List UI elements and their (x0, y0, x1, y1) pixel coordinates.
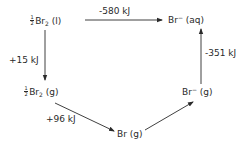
fraction-half: 1 2 (30, 15, 34, 26)
thermochemical-cycle-diagram: 1 2 Br2 (l) -580 kJ Br− (aq) +15 kJ -351… (0, 0, 249, 149)
label-enthalpy-overall: -580 kJ (99, 6, 130, 16)
node-half-br2-gas: 1 2 Br2 (g) (24, 87, 59, 98)
label-enthalpy-hydration: -351 kJ (205, 48, 236, 58)
arrow-brg-to-brg-minus (145, 102, 193, 130)
node-half-br2-liquid: 1 2 Br2 (l) (30, 16, 61, 27)
node-br-gas: Br (g) (117, 129, 143, 139)
fraction-half: 1 2 (24, 86, 28, 97)
label-enthalpy-atomization: +96 kJ (46, 114, 76, 124)
node-br-minus-aqueous: Br− (aq) (168, 15, 204, 25)
node-br-minus-gas: Br− (g) (182, 87, 213, 97)
label-enthalpy-vaporization: +15 kJ (9, 55, 39, 65)
